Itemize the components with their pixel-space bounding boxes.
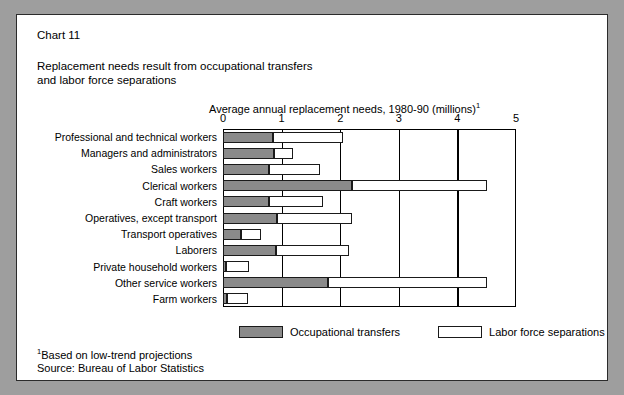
category-label: Other service workers xyxy=(115,278,217,289)
chart-card: Chart 11 Replacement needs result from o… xyxy=(16,14,608,381)
legend-swatch-separations xyxy=(438,326,482,338)
legend-item-occupational-transfers: Occupational transfers xyxy=(239,326,400,338)
bar-segment xyxy=(223,196,269,207)
category-label: Managers and administrators xyxy=(81,148,217,159)
chart-subtitle: Replacement needs result from occupation… xyxy=(37,59,457,87)
category-label: Craft workers xyxy=(155,197,217,208)
x-tick-label-1: 1 xyxy=(279,112,285,124)
category-label: Clerical workers xyxy=(142,181,217,192)
footnotes-block: 1Based on low-trend projections Source: … xyxy=(37,345,204,376)
bar-segment xyxy=(241,229,262,240)
footnote-basis: 1Based on low-trend projections xyxy=(37,345,204,362)
x-tick-label-3: 3 xyxy=(396,112,402,124)
bar-segment xyxy=(223,277,328,288)
bar-segment xyxy=(223,132,273,143)
bar-rows xyxy=(223,129,516,307)
bar-segment xyxy=(269,196,323,207)
bar-segment xyxy=(223,245,276,256)
x-axis-title-footnote-marker: 1 xyxy=(476,101,480,110)
category-label: Private household workers xyxy=(93,262,217,273)
x-tick-label-4: 4 xyxy=(454,112,460,124)
bar-segment xyxy=(328,277,486,288)
bar-segment xyxy=(227,293,248,304)
bar-segment xyxy=(223,180,352,191)
plot-area: 012345 xyxy=(223,129,516,307)
x-tick-label-5: 5 xyxy=(513,112,519,124)
bar-segment xyxy=(223,148,274,159)
bar-segment xyxy=(273,132,343,143)
bar-segment xyxy=(274,148,293,159)
bar-row xyxy=(223,277,516,288)
bar-row xyxy=(223,229,516,240)
bar-row xyxy=(223,132,516,143)
chart-subtitle-line-1: Replacement needs result from occupation… xyxy=(37,59,457,73)
bar-row xyxy=(223,180,516,191)
legend-item-labor-force-separations: Labor force separations xyxy=(438,326,605,338)
screenshot-root: Chart 11 Replacement needs result from o… xyxy=(0,0,624,395)
legend-swatch-transfers xyxy=(239,326,283,338)
chart-number-label: Chart 11 xyxy=(37,29,80,41)
category-label: Operatives, except transport xyxy=(85,213,217,224)
legend-label-transfers: Occupational transfers xyxy=(290,326,400,338)
bar-segment xyxy=(276,245,349,256)
footnote-source: Source: Bureau of Labor Statistics xyxy=(37,362,204,376)
chart-subtitle-line-2: and labor force separations xyxy=(37,73,457,87)
footnote-basis-text: Based on low-trend projections xyxy=(41,349,192,361)
category-label: Transport operatives xyxy=(121,229,217,240)
bar-row xyxy=(223,196,516,207)
bar-segment xyxy=(269,164,320,175)
bar-segment xyxy=(223,293,227,304)
bar-segment xyxy=(277,213,352,224)
category-label: Sales workers xyxy=(151,164,217,175)
bar-row xyxy=(223,148,516,159)
x-axis-title: Average annual replacement needs, 1980-9… xyxy=(209,101,480,115)
bar-segment xyxy=(223,164,269,175)
bar-row xyxy=(223,164,516,175)
category-label: Farm workers xyxy=(153,294,217,305)
x-tick-label-2: 2 xyxy=(337,112,343,124)
category-axis-labels: Professional and technical workersManage… xyxy=(27,129,217,307)
bar-segment xyxy=(226,261,249,272)
bar-row xyxy=(223,245,516,256)
chart-legend: Occupational transfers Labor force separ… xyxy=(239,326,605,338)
legend-label-separations: Labor force separations xyxy=(489,326,605,338)
bar-segment xyxy=(223,261,226,272)
category-label: Professional and technical workers xyxy=(55,132,217,143)
category-label: Laborers xyxy=(176,245,217,256)
bar-row xyxy=(223,261,516,272)
bar-row xyxy=(223,213,516,224)
bar-segment xyxy=(223,229,241,240)
bar-segment xyxy=(352,180,487,191)
x-tick-label-0: 0 xyxy=(220,112,226,124)
bar-row xyxy=(223,293,516,304)
bar-segment xyxy=(223,213,277,224)
